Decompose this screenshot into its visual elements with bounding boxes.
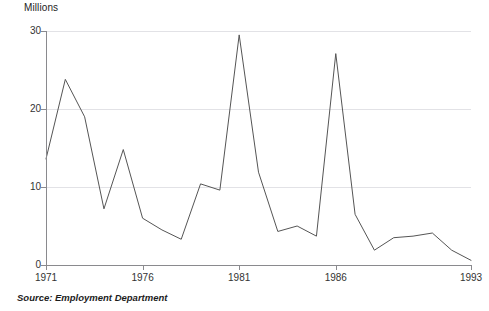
series-line-working-days-lost [46,31,471,265]
x-axis-tick-label: 1993 [460,272,482,283]
x-axis-tick-label: 1981 [228,272,250,283]
x-axis-tick-mark [46,265,47,270]
y-axis-tick: 0 [0,259,41,271]
x-axis-tick-mark [336,265,337,270]
source-note: Source: Employment Department [17,292,167,303]
y-axis-tick-label: 30 [30,25,41,36]
x-axis-tick-mark [471,265,472,270]
y-axis-title: Millions [24,2,58,13]
x-axis-tick-mark [239,265,240,270]
y-axis-tick-label: 20 [30,103,41,114]
x-axis-tick-label: 1976 [131,272,153,283]
y-axis-tick: 10 [0,181,41,193]
y-axis-line [46,31,47,265]
x-axis-tick-mark [143,265,144,270]
x-axis-tick-label: 1986 [325,272,347,283]
y-axis-tick: 20 [0,103,41,115]
y-axis-tick-mark [41,187,46,188]
data-line [46,35,471,260]
y-axis-tick: 30 [0,25,41,37]
x-axis-tick-label: 1971 [35,272,57,283]
y-axis-tick-mark [41,109,46,110]
y-axis-tick-mark [41,31,46,32]
line-chart: Millions 0102030 19711976198119861993 So… [0,0,489,311]
x-axis-line [46,265,471,266]
y-axis-tick-label: 10 [30,181,41,192]
plot-area [46,31,471,265]
